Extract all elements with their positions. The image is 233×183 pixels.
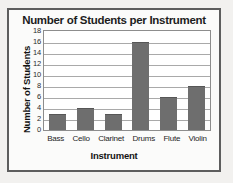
x-axis-tick-label: Cello <box>73 134 90 143</box>
x-axis-tick-label: Bass <box>47 134 64 143</box>
bar-flute <box>160 97 177 130</box>
y-axis-tick-label: 0 <box>25 126 41 134</box>
y-axis-tick-labels: 181614121086420 <box>25 30 41 131</box>
chart-title: Number of Students per Instrument <box>9 14 219 26</box>
plot-area <box>43 30 211 131</box>
bar-clarinet <box>105 114 122 131</box>
y-axis-tick-label: 16 <box>25 38 41 46</box>
bar-bass <box>49 114 66 131</box>
x-axis-tick-label: Violin <box>189 134 207 143</box>
y-axis-tick-label: 6 <box>25 93 41 101</box>
bar-series <box>44 31 210 130</box>
x-axis-tick-label: Clarinet <box>98 134 124 143</box>
x-axis-tick-labels: BassCelloClarinetDrumsFluteViolin <box>43 134 211 146</box>
bar-violin <box>188 86 205 130</box>
bar-cello <box>77 108 94 130</box>
y-axis-tick-label: 14 <box>25 49 41 57</box>
y-axis-tick-label: 8 <box>25 82 41 90</box>
x-axis-title: Instrument <box>9 150 219 161</box>
x-axis-tick-label: Flute <box>163 134 180 143</box>
y-axis-tick-label: 2 <box>25 115 41 123</box>
y-axis-tick-label: 18 <box>25 27 41 35</box>
x-axis-tick-label: Drums <box>132 134 155 143</box>
y-axis-tick-label: 10 <box>25 71 41 79</box>
y-axis-tick-label: 4 <box>25 104 41 112</box>
bar-drums <box>132 42 149 130</box>
chart-frame: Number of Students per Instrument Number… <box>7 8 221 172</box>
y-axis-tick-label: 12 <box>25 60 41 68</box>
